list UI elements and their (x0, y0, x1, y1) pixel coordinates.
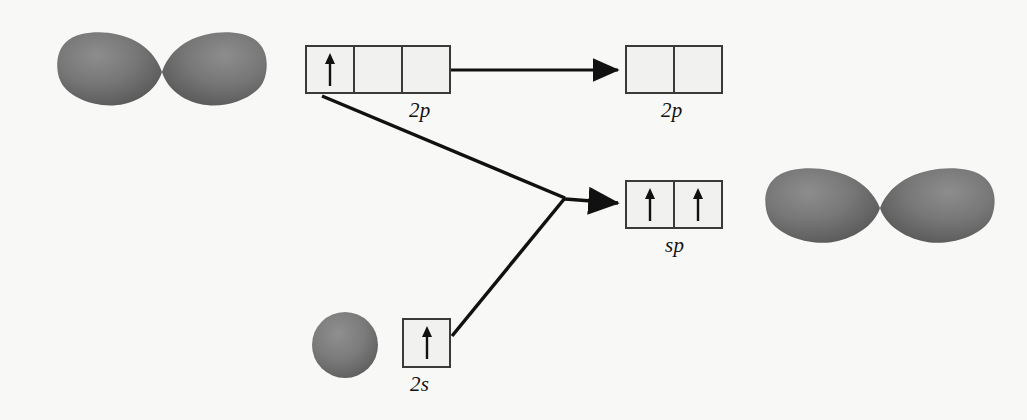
orbital-box-2s (402, 318, 451, 368)
orbital-box-2p-initial (305, 45, 451, 94)
orbital-cell (627, 182, 675, 227)
s-orbital-sphere (312, 312, 378, 378)
electron-spin-up-icon (420, 325, 434, 361)
orbital-box-sp-hybrid (625, 180, 723, 229)
sp-hybridization-figure: 2p 2p sp 2s (0, 0, 1027, 420)
orbital-box-2p-remaining (625, 45, 723, 94)
orbital-cell (404, 320, 449, 366)
label-2p-remaining: 2p (661, 98, 683, 123)
electron-spin-up-icon (691, 187, 705, 223)
connector-layer (0, 0, 1027, 420)
arrow-vertex-to-sp (565, 199, 618, 203)
electron-spin-up-icon (323, 52, 337, 88)
p-orbital-dumbbell (57, 32, 266, 105)
label-sp-hybrid: sp (665, 233, 684, 258)
orbital-cell (675, 182, 721, 227)
line-p-to-vertex (322, 96, 565, 198)
label-2p-initial: 2p (409, 98, 431, 123)
orbital-shapes-layer (0, 0, 1027, 420)
electron-spin-up-icon (643, 187, 657, 223)
orbital-cell (307, 47, 355, 92)
sp-orbital-dumbbell (765, 168, 994, 243)
orbital-cell (627, 47, 675, 92)
orbital-cell (675, 47, 721, 92)
orbital-cell (355, 47, 403, 92)
orbital-cell (403, 47, 449, 92)
label-2s: 2s (410, 372, 429, 397)
line-s-to-vertex (452, 198, 565, 336)
